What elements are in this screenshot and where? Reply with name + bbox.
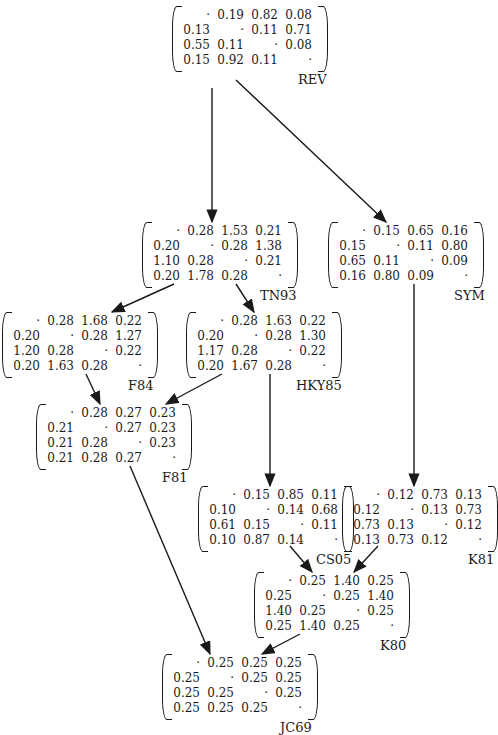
matrix-cell: · — [348, 488, 382, 503]
matrix-cell: 0.12 — [348, 503, 382, 518]
matrix-cell: · — [306, 533, 340, 548]
matrix-cell: · — [362, 619, 396, 634]
matrix-cell: 0.28 — [216, 269, 250, 284]
matrix-cell: · — [110, 359, 144, 374]
matrix-cell: 0.15 — [238, 518, 272, 533]
matrix-cell: 0.55 — [178, 38, 212, 53]
matrix-cell: 0.14 — [272, 533, 306, 548]
matrix-cell: 0.19 — [212, 8, 246, 23]
matrix-cell: · — [178, 8, 212, 23]
matrix-cell: 1.17 — [192, 344, 226, 359]
matrix-cell: · — [212, 23, 246, 38]
edge-cs05-to-k80 — [290, 546, 312, 572]
matrix-cell: · — [416, 518, 450, 533]
matrix-cell: 0.23 — [144, 436, 178, 451]
edge-f84-to-f81 — [86, 374, 100, 404]
matrix-cell: 0.80 — [436, 239, 470, 254]
matrix-cell: 0.68 — [306, 503, 340, 518]
right-paren — [288, 222, 298, 288]
matrix-cell: 0.25 — [362, 574, 396, 589]
matrix-cell: · — [148, 224, 182, 239]
matrix-cell: 0.80 — [368, 269, 402, 284]
matrix-cell: 0.25 — [236, 701, 270, 716]
matrix-cell: 1.38 — [250, 239, 284, 254]
matrix-cell: 1.53 — [216, 224, 250, 239]
model-label: F81 — [162, 470, 188, 485]
matrix-cell: 0.25 — [260, 619, 294, 634]
matrix-cell: 0.08 — [280, 38, 314, 53]
matrix-cell: · — [226, 329, 260, 344]
matrix-cell: 0.15 — [178, 53, 212, 68]
matrix-cell: · — [246, 38, 280, 53]
matrix-cell: 0.71 — [280, 23, 314, 38]
matrix-cell: 0.28 — [76, 329, 110, 344]
matrix-cell: 0.20 — [192, 359, 226, 374]
right-paren — [182, 404, 192, 470]
matrix-cell: 0.27 — [110, 421, 144, 436]
matrix-cell: 0.11 — [246, 53, 280, 68]
rate-matrix: ·0.281.530.210.20·0.281.381.100.28·0.210… — [148, 224, 284, 284]
matrix-cell: 0.25 — [362, 604, 396, 619]
matrix-cell: · — [368, 239, 402, 254]
matrix-cell: 0.20 — [8, 359, 42, 374]
edge-hky85-to-f81 — [166, 374, 222, 404]
matrix-cell: 0.12 — [416, 533, 450, 548]
matrix-cell: 0.28 — [42, 344, 76, 359]
matrix-cell: 0.16 — [436, 224, 470, 239]
matrix-cell: · — [192, 314, 226, 329]
matrix-cell: · — [182, 239, 216, 254]
matrix-cell: · — [382, 503, 416, 518]
matrix-cell: 0.21 — [250, 224, 284, 239]
matrix-cell: 1.68 — [76, 314, 110, 329]
matrix-cell: 1.20 — [8, 344, 42, 359]
matrix-cell: 0.22 — [110, 344, 144, 359]
matrix-cell: 0.13 — [450, 488, 484, 503]
matrix-cell: 0.73 — [382, 533, 416, 548]
matrix-cell: 0.28 — [76, 436, 110, 451]
matrix-cell: 0.92 — [212, 53, 246, 68]
matrix-cell: · — [42, 406, 76, 421]
matrix-cell: 0.65 — [402, 224, 436, 239]
matrix-cell: 0.08 — [280, 8, 314, 23]
matrix-cell: 0.25 — [260, 589, 294, 604]
rate-matrix: ·0.150.850.110.10·0.140.680.610.15·0.110… — [204, 488, 340, 548]
matrix-cell: 0.25 — [270, 686, 304, 701]
matrix-cell: · — [260, 344, 294, 359]
matrix-cell: 0.28 — [76, 406, 110, 421]
model-label: F84 — [128, 378, 154, 393]
right-paren — [148, 312, 158, 378]
matrix-cell: · — [110, 436, 144, 451]
matrix-cell: 0.22 — [294, 314, 328, 329]
matrix-cell: 1.40 — [260, 604, 294, 619]
matrix-cell: 0.25 — [236, 671, 270, 686]
matrix-cell: 1.27 — [110, 329, 144, 344]
matrix-cell: 1.63 — [260, 314, 294, 329]
matrix-cell: 0.28 — [260, 359, 294, 374]
matrix-cell: 0.15 — [368, 224, 402, 239]
matrix-cell: 0.12 — [450, 518, 484, 533]
matrix-cell: 0.28 — [226, 314, 260, 329]
matrix-cell: 0.12 — [382, 488, 416, 503]
matrix-cell: 0.25 — [168, 686, 202, 701]
matrix-cell: 0.13 — [178, 23, 212, 38]
matrix-cell: 0.82 — [246, 8, 280, 23]
matrix-cell: 0.25 — [168, 671, 202, 686]
matrix-cell: · — [402, 254, 436, 269]
matrix-cell: · — [236, 686, 270, 701]
model-label: CS05 — [316, 552, 351, 567]
model-label: K81 — [468, 552, 494, 567]
rate-matrix: ·0.281.630.220.20·0.281.301.170.28·0.220… — [192, 314, 328, 374]
matrix-cell: 1.63 — [42, 359, 76, 374]
matrix-cell: 0.15 — [334, 239, 368, 254]
matrix-cell: 0.09 — [436, 254, 470, 269]
matrix-cell: · — [144, 451, 178, 466]
rate-matrix: ·0.150.650.160.15·0.110.800.650.11·0.090… — [334, 224, 470, 284]
matrix-cell: · — [202, 671, 236, 686]
matrix-cell: 0.28 — [216, 239, 250, 254]
matrix-cell: 0.20 — [8, 329, 42, 344]
model-label: SYM — [454, 288, 485, 303]
model-label: K80 — [380, 638, 406, 653]
rate-matrix: ·0.281.680.220.20·0.281.271.200.28·0.220… — [8, 314, 144, 374]
model-label: JC69 — [280, 720, 312, 735]
matrix-cell: 0.11 — [368, 254, 402, 269]
